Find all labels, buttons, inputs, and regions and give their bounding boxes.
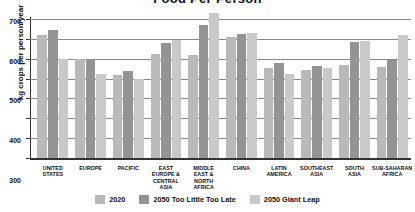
y-axis-tick-label-300: 300 [9,176,21,183]
plot-area: 0100200300400500600700 [30,17,411,160]
bar [151,54,161,158]
bar [209,13,219,158]
y-axis-tick-500: 500 [26,59,30,60]
bar-group [264,17,295,158]
bar [113,75,123,158]
bar-group [339,17,370,158]
bar [226,37,236,158]
y-axis-tick-300: 300 [26,98,30,99]
bar [86,59,96,158]
y-axis-tick-400: 400 [26,79,30,80]
bar-group [301,17,332,158]
bar [339,65,349,158]
bar [123,71,133,158]
y-axis-tick-label-400: 400 [9,137,21,144]
bar [48,30,58,158]
chart-container: Food Per Person kg crops per person/year… [0,0,415,212]
legend-swatch [139,195,149,204]
bar [323,68,333,158]
chart-legend: 20202050 Too Little Too Late2050 Giant L… [0,195,415,204]
legend-label: 2050 Giant Leap [264,195,320,204]
legend-swatch [95,195,105,204]
bar [96,74,106,158]
y-axis-tick-label-600: 600 [9,57,21,64]
bar-group [151,17,182,158]
bar [172,40,182,158]
bar [188,55,198,158]
bar [264,68,274,158]
bar [59,59,69,158]
y-axis-tick-label-700: 700 [9,18,21,25]
y-axis-tick-700: 700 [26,19,30,20]
bar [285,74,295,158]
x-axis-label-line: STATES [29,171,77,177]
bar [199,25,209,158]
bar [312,66,322,158]
legend-swatch [250,195,260,204]
bar [360,41,370,158]
bar [237,34,247,158]
bar-group [37,17,68,158]
bar [274,63,284,158]
legend-label: 2020 [109,195,125,204]
bar [247,33,257,158]
x-axis-label: SUB-SAHARANAFRICA [368,165,415,178]
bar [75,59,85,158]
bar [161,43,171,158]
bar-group [75,17,106,158]
chart-title: Food Per Person [0,0,415,6]
legend-item[interactable]: 2050 Giant Leap [250,195,320,204]
bar-group [113,17,144,158]
x-axis-label-line: AFRICA [368,171,415,177]
x-axis-label-line: AFRICA [180,184,228,190]
bar [37,35,47,158]
x-axis-category-labels: UNITEDSTATESEUROPEPACIFICEASTEUROPE &CEN… [30,165,411,193]
y-axis-tick-0: 0 [26,158,30,159]
bar-group [377,17,408,158]
y-axis-tick-600: 600 [26,39,30,40]
legend-label: 2050 Too Little Too Late [153,195,235,204]
bar [377,67,387,158]
bar [398,35,408,159]
bar-group [226,17,257,158]
legend-item[interactable]: 2020 [95,195,125,204]
bar [134,79,144,158]
bar [301,70,311,158]
x-axis-line [30,158,411,160]
legend-item[interactable]: 2050 Too Little Too Late [139,195,235,204]
bar [387,60,397,158]
bar [350,42,360,158]
y-axis-tick-200: 200 [26,118,30,119]
y-axis-tick-100: 100 [26,138,30,139]
y-axis-tick-label-500: 500 [9,97,21,104]
bar-group [188,17,219,158]
